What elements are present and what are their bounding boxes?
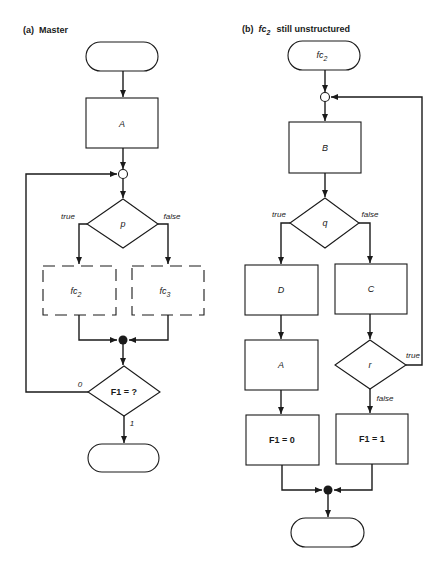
arrow-q-false — [359, 223, 370, 263]
arrow-f1-0-to-join — [282, 465, 322, 490]
edge-label-p-false: false — [164, 212, 181, 221]
arrow-p-false — [158, 224, 168, 264]
process-box-a-label: A — [118, 119, 125, 129]
panel-a-title: (a)Master — [23, 25, 69, 35]
fc2-merge-connector — [321, 93, 330, 102]
fc2-join-dot — [324, 486, 333, 495]
arrow-f1-1-to-join — [334, 464, 372, 490]
decision-q-label: q — [322, 218, 327, 228]
edge-label-f1-zero: 0 — [78, 380, 83, 389]
arrow-p-true — [79, 224, 87, 264]
process-box-b-label: B — [322, 143, 328, 153]
arrow-q-true — [281, 223, 290, 264]
arrow-fc2-to-join — [79, 315, 117, 340]
join-dot — [119, 336, 128, 345]
edge-label-r-true: true — [406, 351, 420, 360]
panel-a-master: (a)Master A p true false fc2 fc3 — [23, 25, 204, 472]
edge-label-q-false: false — [362, 210, 379, 219]
edge-label-p-true: true — [61, 212, 75, 221]
edge-label-r-false: false — [377, 394, 394, 403]
decision-p-label: p — [119, 219, 125, 229]
assign-f1-1-label: F1 = 1 — [359, 434, 385, 444]
merge-connector — [119, 170, 128, 179]
process-box-a-fc2-label: A — [277, 360, 284, 370]
edge-label-q-true: true — [272, 210, 286, 219]
panel-b-fc2: (b)fc2still unstructured fc2 B q true fa… — [242, 24, 422, 547]
decision-f1-label: F1 = ? — [111, 387, 137, 397]
fc2-end-terminal — [291, 518, 364, 547]
panel-b-title: (b)fc2still unstructured — [242, 24, 350, 36]
process-box-d-label: D — [278, 285, 285, 295]
assign-f1-0-label: F1 = 0 — [269, 435, 295, 445]
process-box-c-label: C — [368, 284, 375, 294]
edge-label-f1-one: 1 — [130, 419, 134, 428]
arrow-fc3-to-join — [129, 315, 168, 340]
start-terminal — [86, 42, 158, 71]
end-terminal — [88, 444, 159, 472]
flowchart-canvas: (a)Master A p true false fc2 fc3 — [0, 0, 446, 567]
